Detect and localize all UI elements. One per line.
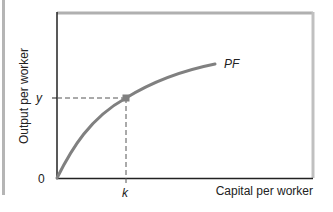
k-marker-label: k: [122, 186, 129, 200]
y-marker-label: y: [35, 91, 43, 105]
pf-curve: [57, 64, 215, 178]
origin-label: 0: [38, 172, 45, 186]
curve-label: PF: [224, 57, 240, 71]
x-axis-label: Capital per worker: [216, 184, 313, 198]
production-function-chart: PF y 0 k Capital per worker Output per w…: [0, 0, 333, 212]
equilibrium-point: [123, 95, 130, 102]
y-axis-label: Output per worker: [17, 48, 31, 144]
